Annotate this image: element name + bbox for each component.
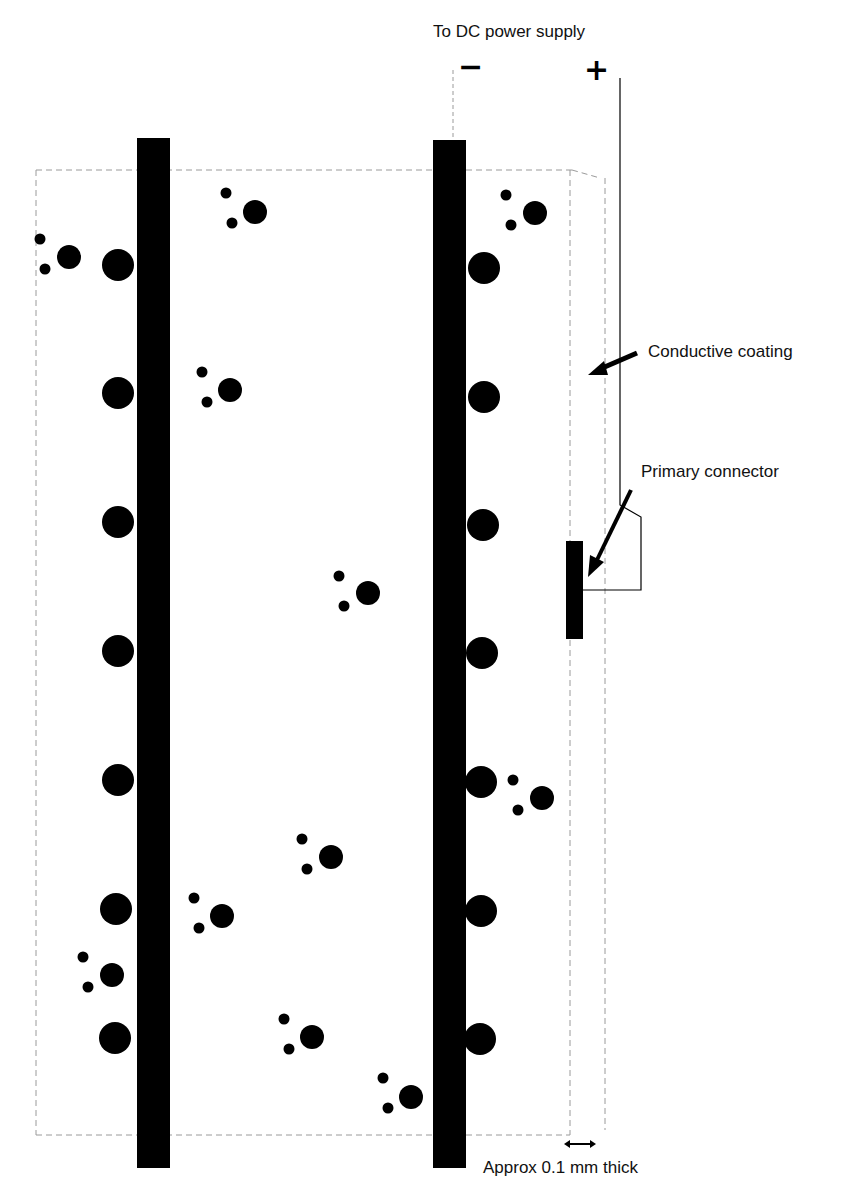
negative-terminal-icon: − [458,52,483,82]
cluster [508,775,555,816]
cluster [78,952,125,993]
electrode-bar-left [137,138,170,1168]
cluster [297,834,344,875]
cluster [221,188,268,229]
thickness-arrow [564,1140,596,1148]
primary-connector [566,541,583,639]
thickness-label: Approx 0.1 mm thick [483,1158,638,1178]
cluster [334,571,381,612]
electrode-bar-right [433,140,466,1168]
cluster [501,190,548,231]
power-supply-label: To DC power supply [433,22,585,42]
cluster [197,367,243,408]
attached-particles-right [464,252,500,1055]
arrow-primary-connector [588,490,631,577]
conductive-coating-label: Conductive coating [648,342,793,362]
cluster [35,234,82,275]
cluster [189,893,235,934]
electrode-diagram [0,0,849,1191]
cluster [279,1014,325,1055]
positive-terminal-icon: + [584,55,609,85]
cluster [378,1073,424,1114]
positive-lead [583,78,641,590]
attached-particles-left [99,249,134,1054]
arrow-conductive-coating [588,353,637,375]
primary-connector-label: Primary connector [641,462,779,482]
